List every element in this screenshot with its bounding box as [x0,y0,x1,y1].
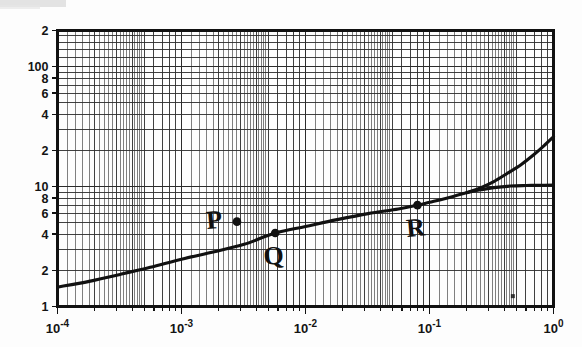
y-tick-label: 2 [42,24,49,38]
y-axis-tick-labels: 210086421086421 [28,24,49,314]
marker-point-q [271,229,280,238]
curve-main-curve [58,193,467,288]
label-point-p: P [205,205,223,235]
y-tick-label: 8 [42,192,49,206]
label-point-q: Q [262,240,285,271]
x-tick-label: 10-4 [46,318,70,336]
marker-point-r [413,201,422,210]
x-tick-label: 10-3 [170,318,194,336]
label-point-r: R [405,212,426,243]
y-tick-label: 1 [42,300,49,314]
x-tick-label: 10-1 [418,318,442,336]
y-tick-label: 8 [42,72,49,86]
page-artifacts [511,294,515,298]
log-log-chart: 10-410-310-210-1100 210086421086421 PQR [0,0,582,347]
x-tick-label: 10-2 [294,318,318,336]
y-tick-label: 2 [42,264,49,278]
y-tick-label: 2 [42,144,49,158]
marker-point-p [233,217,242,226]
y-tick-label: 4 [42,228,49,242]
figure-canvas: 10-410-310-210-1100 210086421086421 PQR [0,0,582,347]
data-point-labels: PQR [205,205,426,271]
scan-artifact-top-secondary [0,5,40,9]
y-tick-label: 6 [42,87,49,101]
scan-speck [511,294,515,298]
x-axis-tick-labels: 10-410-310-210-1100 [46,318,564,336]
x-tick-label: 100 [543,318,563,336]
y-tick-label: 6 [42,207,49,221]
y-tick-label: 4 [42,108,49,122]
